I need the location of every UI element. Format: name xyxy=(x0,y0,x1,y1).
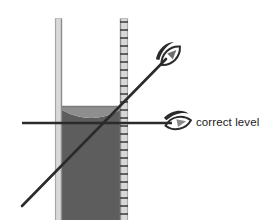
cylinder-left-wall xyxy=(55,18,62,220)
measuring-cylinder-diagram: correct level xyxy=(0,0,277,220)
liquid-body xyxy=(62,110,120,220)
correct-level-label: correct level xyxy=(196,116,259,128)
